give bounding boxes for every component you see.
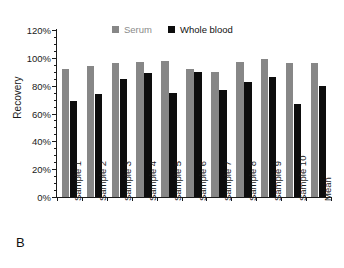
x-tick-label: Sample 3 — [123, 161, 133, 201]
bar-serum — [261, 59, 269, 197]
y-tick-label: 120% — [27, 25, 51, 36]
x-tick-label: Sample 10 — [298, 156, 308, 201]
y-tick-label: 80% — [32, 80, 51, 91]
x-tick-label: Sample 2 — [98, 161, 108, 201]
bar-serum — [236, 62, 244, 197]
x-tick-label: Sample 8 — [248, 161, 258, 201]
x-tick-label: Sample 5 — [173, 161, 183, 201]
bar-serum — [87, 66, 95, 197]
bar-serum — [136, 62, 144, 197]
y-tick-label: 20% — [32, 164, 51, 175]
y-axis-title: Recovery — [12, 53, 23, 143]
figure-panel-b: Serum Whole blood Recovery 0%20%40%60%80… — [0, 0, 344, 268]
bar-serum — [161, 61, 169, 197]
bar-serum — [186, 69, 194, 197]
bar-serum — [286, 63, 294, 197]
x-tick — [57, 197, 58, 201]
bar-group — [306, 30, 331, 197]
bar-serum — [311, 63, 319, 197]
bar-serum — [62, 69, 70, 197]
x-tick-label: Sample 4 — [148, 161, 158, 201]
y-tick-label: 100% — [27, 52, 51, 63]
y-tick-label: 40% — [32, 136, 51, 147]
x-tick-label: Sample 6 — [198, 161, 208, 201]
x-tick-label: Mean — [323, 177, 333, 201]
x-tick-label: Sample 1 — [73, 161, 83, 201]
bar-serum — [112, 63, 120, 197]
x-tick-label: Sample 9 — [273, 161, 283, 201]
panel-letter: B — [16, 236, 25, 249]
x-tick-label: Sample 7 — [223, 161, 233, 201]
y-tick-label: 0% — [37, 192, 51, 203]
y-tick-label: 60% — [32, 108, 51, 119]
bar-serum — [211, 72, 219, 197]
